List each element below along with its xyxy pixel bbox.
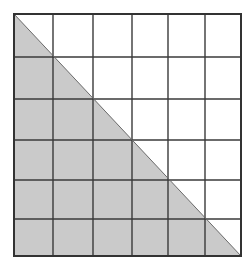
grid-diagram [0, 0, 250, 271]
